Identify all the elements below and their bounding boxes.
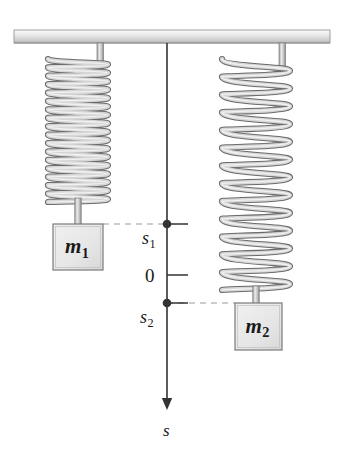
axis-tick-label-zero: 0 (145, 266, 155, 285)
leader-line-group (103, 224, 235, 303)
axis-tick-label-s2: s2 (140, 308, 154, 329)
mass-1-label: m1 (65, 236, 89, 260)
tick-s2-dot (163, 299, 172, 308)
spring-1-bottom-rod (75, 198, 81, 226)
axis-arrowhead (162, 398, 172, 410)
tick-s1-dot (163, 220, 172, 229)
diagram-canvas (0, 0, 344, 450)
support-ceiling (14, 30, 330, 43)
spring-2-bottom-rod (253, 286, 259, 305)
mass-2-label: m2 (246, 316, 270, 340)
ceiling-bar (14, 30, 330, 43)
axis-group (162, 43, 188, 410)
spring-1 (48, 43, 108, 226)
spring-mass-diagram: m1 m2 s1 0 s2 s (0, 0, 344, 450)
axis-label-s: s (163, 422, 170, 439)
spring-2 (222, 43, 290, 305)
axis-tick-label-s1: s1 (142, 229, 156, 250)
